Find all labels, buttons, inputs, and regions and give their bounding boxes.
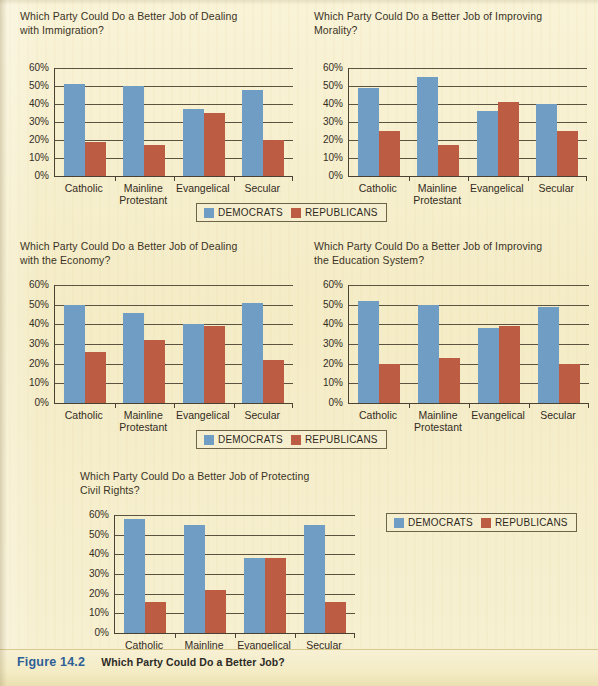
x-axis-tick-label: Catholic (54, 409, 114, 433)
figure-number: Figure 14.2 (17, 655, 85, 669)
x-axis-tick (115, 403, 116, 408)
bar-group (469, 285, 529, 403)
plot-area (348, 68, 587, 177)
bar-democrats (477, 111, 498, 176)
figure-caption: Figure 14.2 Which Party Could Do a Bette… (17, 655, 285, 669)
bar-democrats (478, 328, 499, 403)
bar-democrats (244, 558, 265, 633)
x-axis-tick (409, 176, 410, 181)
y-axis-tick-label: 30% (323, 339, 343, 349)
bar-group (409, 285, 469, 403)
bar-republicans (498, 102, 519, 176)
bar-republicans (379, 364, 400, 403)
y-axis-tick-label: 60% (29, 280, 49, 290)
x-axis-tick-label: Mainline Protestant (114, 409, 174, 433)
x-axis-tick (469, 403, 470, 408)
y-axis-tick-label: 50% (29, 81, 49, 91)
y-axis-tick-label: 40% (29, 319, 49, 329)
bar-democrats (124, 519, 145, 633)
republicans-swatch-icon (291, 208, 301, 218)
bar-group (115, 285, 175, 403)
x-axis-tick-label: Evangelical (467, 182, 527, 206)
legend-item-republicans: REPUBLICANS (481, 517, 568, 528)
bar-republicans (557, 131, 578, 176)
bar-group (174, 68, 234, 176)
y-axis-labels: 60%50%40%30%20%10%0% (312, 285, 343, 403)
bar-democrats (358, 301, 379, 403)
legend-label-democrats: DEMOCRATS (218, 207, 283, 218)
figure-page: Which Party Could Do a Better Job of Dea… (0, 0, 598, 686)
x-axis-tick (468, 176, 469, 181)
x-axis-tick (174, 176, 175, 181)
bar-democrats (418, 305, 439, 403)
bar-group (115, 515, 175, 633)
legend-label-republicans: REPUBLICANS (305, 434, 378, 445)
legend-item-democrats: DEMOCRATS (394, 517, 473, 528)
bar-group (115, 68, 175, 176)
y-axis-labels: 60%50%40%30%20%10%0% (18, 285, 49, 403)
chart-panel-civil-rights: Which Party Could Do a Better Job of Pro… (78, 470, 368, 645)
y-axis-tick-label: 30% (323, 117, 343, 127)
y-axis-tick-label: 20% (29, 135, 49, 145)
y-axis-tick-label: 50% (29, 300, 49, 310)
y-axis-tick-label: 40% (29, 99, 49, 109)
bar-democrats (358, 88, 379, 176)
y-axis-tick-label: 60% (29, 63, 49, 73)
bar-group (295, 515, 355, 633)
bar-democrats (183, 324, 204, 403)
bar-republicans (379, 131, 400, 176)
legend-item-republicans: REPUBLICANS (291, 207, 378, 218)
legend-row-2: DEMOCRATS REPUBLICANS (196, 430, 387, 449)
bar-democrats (123, 86, 144, 176)
chart-panel-education: Which Party Could Do a Better Job of Imp… (312, 240, 584, 425)
bar-democrats (123, 313, 144, 403)
y-axis-labels: 60%50%40%30%20%10%0% (312, 68, 343, 176)
democrats-swatch-icon (394, 518, 404, 528)
democrats-swatch-icon (204, 435, 214, 445)
x-axis-tick-label: Mainline Protestant (114, 182, 174, 206)
x-axis-tick (586, 176, 587, 181)
x-axis-tick-label: Secular (528, 409, 588, 433)
bar-group (409, 68, 469, 176)
y-axis-tick-label: 30% (29, 117, 49, 127)
x-axis-tick-label: Mainline Protestant (408, 182, 468, 206)
bar-group (174, 285, 234, 403)
bar-group (235, 515, 295, 633)
bar-republicans (85, 142, 106, 176)
y-axis-tick-label: 40% (323, 319, 343, 329)
republicans-swatch-icon (291, 435, 301, 445)
y-axis-tick-label: 50% (323, 300, 343, 310)
bar-democrats (184, 525, 205, 633)
legend-item-republicans: REPUBLICANS (291, 434, 378, 445)
y-axis-tick-label: 10% (323, 153, 343, 163)
x-axis-tick (528, 176, 529, 181)
bar-republicans (145, 602, 166, 633)
chart-panel-economy: Which Party Could Do a Better Job of Dea… (18, 240, 288, 425)
chart-title: Which Party Could Do a Better Job of Imp… (314, 10, 584, 37)
chart-title: Which Party Could Do a Better Job of Dea… (20, 10, 288, 37)
bar-democrats (64, 305, 85, 403)
bar-republicans (439, 358, 460, 403)
bar-group (234, 285, 294, 403)
chart-title: Which Party Could Do a Better Job of Imp… (314, 240, 586, 267)
y-axis-tick-label: 20% (323, 135, 343, 145)
chart-title: Which Party Could Do a Better Job of Pro… (80, 470, 380, 497)
bar-republicans (204, 113, 225, 176)
bar-group (55, 285, 115, 403)
bar-group (349, 285, 409, 403)
figure-caption-text: Which Party Could Do a Better Job? (101, 656, 285, 668)
y-axis-tick-label: 10% (29, 153, 49, 163)
bar-republicans (205, 590, 226, 633)
plot-area (54, 285, 293, 404)
y-axis-labels: 60%50%40%30%20%10%0% (78, 515, 109, 633)
legend-item-democrats: DEMOCRATS (204, 434, 283, 445)
y-axis-tick-label: 30% (29, 339, 49, 349)
x-axis-tick (529, 403, 530, 408)
bar-democrats (538, 307, 559, 403)
chart-panel-morality: Which Party Could Do a Better Job of Imp… (312, 10, 584, 195)
bar-republicans (559, 364, 580, 403)
legend-label-democrats: DEMOCRATS (408, 517, 473, 528)
republicans-swatch-icon (481, 518, 491, 528)
x-axis-tick (235, 633, 236, 638)
y-axis-tick-label: 40% (323, 99, 343, 109)
